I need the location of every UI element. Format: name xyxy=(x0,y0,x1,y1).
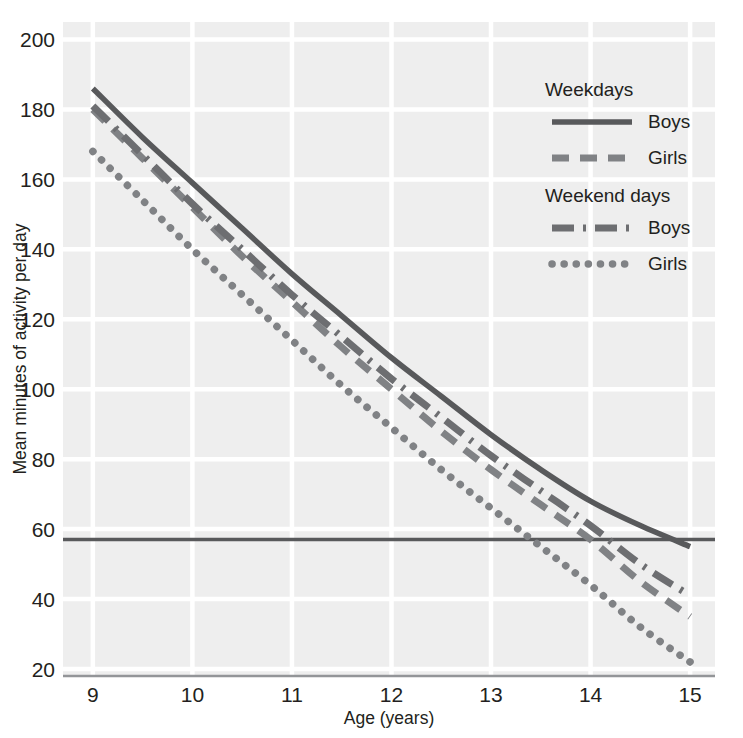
x-tick-label: 15 xyxy=(678,683,701,706)
chart-canvas: 20406080100120140160180200 9101112131415… xyxy=(0,0,743,738)
activity-by-age-chart: 20406080100120140160180200 9101112131415… xyxy=(0,0,743,738)
x-tick-label: 12 xyxy=(380,683,403,706)
x-tick-label: 11 xyxy=(281,683,303,706)
y-tick-label: 180 xyxy=(20,98,55,121)
y-tick-label: 80 xyxy=(32,448,55,471)
legend-group-heading: Weekdays xyxy=(545,79,633,100)
legend-item-label: Girls xyxy=(648,147,687,168)
y-axis-title: Mean minutes of activity per day xyxy=(10,223,30,474)
legend-item-label: Boys xyxy=(648,217,690,238)
legend-item-label: Girls xyxy=(648,253,687,274)
y-tick-label: 40 xyxy=(32,588,55,611)
y-tick-label: 160 xyxy=(20,168,55,191)
y-tick-label: 60 xyxy=(32,518,55,541)
x-axis-title: Age (years) xyxy=(344,708,434,728)
x-tick-label: 13 xyxy=(479,683,502,706)
x-axis-tick-labels: 9101112131415 xyxy=(87,683,702,706)
x-tick-label: 9 xyxy=(87,683,99,706)
x-tick-label: 14 xyxy=(579,683,603,706)
legend-group-heading: Weekend days xyxy=(545,185,670,206)
legend-item-label: Boys xyxy=(648,111,690,132)
x-tick-label: 10 xyxy=(181,683,204,706)
y-tick-label: 200 xyxy=(20,28,55,51)
y-tick-label: 20 xyxy=(32,658,55,681)
